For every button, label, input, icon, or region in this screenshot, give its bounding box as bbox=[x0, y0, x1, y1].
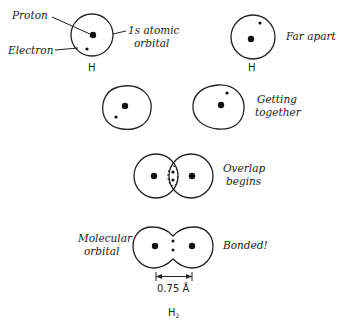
overlap-label-line2: begins bbox=[226, 175, 262, 187]
electron-dot bbox=[258, 21, 261, 24]
bond-length-label: 0.75 Å bbox=[157, 282, 189, 294]
proton-dot bbox=[122, 103, 128, 109]
electron-dot bbox=[172, 240, 175, 243]
molecular-orbital-label-line2: orbital bbox=[84, 245, 119, 257]
proton-dot bbox=[151, 173, 157, 179]
bond-length-dimension: 0.75 Å bbox=[156, 272, 192, 294]
proton-dot bbox=[218, 102, 224, 108]
orbital-pointer-line bbox=[113, 31, 126, 34]
proton-dot bbox=[90, 32, 96, 38]
molecule-subscript: 2 bbox=[176, 312, 180, 319]
bonded-molecule: Molecular orbital Bonded! bbox=[77, 227, 268, 268]
far-apart-atom: H Far apart bbox=[231, 15, 336, 73]
far-apart-label: Far apart bbox=[285, 30, 336, 42]
molecular-orbital-outline bbox=[133, 227, 213, 268]
molecular-orbital-label-line1: Molecular bbox=[77, 232, 133, 244]
isolated-hydrogen-atom: Proton Electron 1s atomic orbital H bbox=[7, 9, 180, 73]
overlap-begins-atoms: Overlap begins bbox=[134, 154, 265, 198]
proton-dot bbox=[248, 36, 254, 42]
arrowhead-right bbox=[186, 274, 192, 279]
hydrogen-symbol: H bbox=[248, 62, 256, 73]
hydrogen-symbol: H bbox=[88, 62, 96, 73]
electron-pointer-line bbox=[55, 48, 78, 50]
orbital-label-line1: 1s atomic bbox=[128, 24, 180, 36]
molecule-symbol: H bbox=[168, 307, 176, 318]
overlap-label-line1: Overlap bbox=[223, 162, 265, 174]
electron-dot bbox=[171, 178, 174, 181]
getting-together-label-line1: Getting bbox=[257, 93, 297, 105]
electron-dot bbox=[172, 249, 175, 252]
electron-dot bbox=[114, 115, 117, 118]
electron-label: Electron bbox=[7, 44, 54, 56]
molecule-caption: H2 bbox=[168, 307, 180, 319]
arrowhead-left bbox=[156, 274, 162, 279]
electron-dot bbox=[85, 47, 88, 50]
electron-dot bbox=[225, 91, 228, 94]
proton-label: Proton bbox=[11, 9, 48, 21]
getting-together-atoms: Getting together bbox=[103, 85, 302, 129]
proton-dot bbox=[189, 173, 195, 179]
h2-bond-formation-diagram: Proton Electron 1s atomic orbital H H Fa… bbox=[0, 0, 340, 330]
proton-dot bbox=[152, 243, 158, 249]
electron-dot bbox=[171, 170, 174, 173]
bonded-label: Bonded! bbox=[222, 239, 268, 251]
distorted-orbital-right bbox=[193, 85, 244, 129]
getting-together-label-line2: together bbox=[255, 106, 302, 118]
proton-dot bbox=[189, 243, 195, 249]
orbital-label-line2: orbital bbox=[134, 37, 169, 49]
